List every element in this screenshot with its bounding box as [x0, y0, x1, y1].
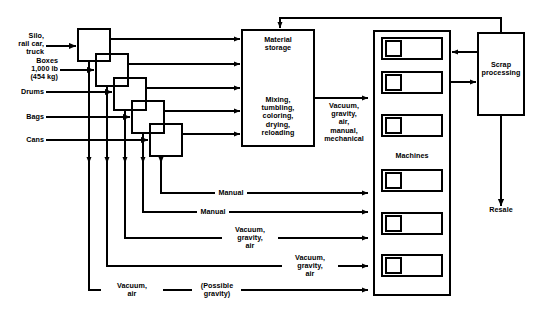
machine-unit-2-inner: [386, 75, 401, 90]
route-vac-3: [125, 163, 222, 238]
machine-unit-3-inner: [386, 118, 401, 133]
route-manual-2: [143, 163, 197, 212]
machine-unit-4-inner: [386, 173, 401, 188]
unloader-box-4: [132, 101, 164, 133]
unloader-box-1: [78, 29, 110, 61]
machine-unit-6-inner: [386, 258, 401, 273]
machine-unit-1-inner: [386, 41, 401, 56]
flow-diagram-svg: [0, 0, 550, 316]
material-storage-box: [242, 30, 314, 146]
unloader-box-2: [96, 54, 128, 86]
route-vac-4: [107, 163, 282, 266]
storage-feed-lines: [110, 39, 240, 134]
scrap-links: [280, 18, 501, 206]
route-manual-1: [161, 163, 215, 193]
machine-units: [382, 38, 442, 276]
diagram-canvas: Silo, rail car, truck Boxes 1,000 lb (45…: [0, 0, 550, 316]
scrap-processing-box: [478, 33, 524, 115]
route-vac-air-5: [89, 163, 101, 290]
conveyance-routes: [89, 163, 368, 290]
input-feed-lines: [46, 46, 148, 140]
machine-unit-5-inner: [386, 216, 401, 231]
unloader-box-3: [114, 78, 146, 110]
unloader-box-5: [150, 124, 182, 156]
